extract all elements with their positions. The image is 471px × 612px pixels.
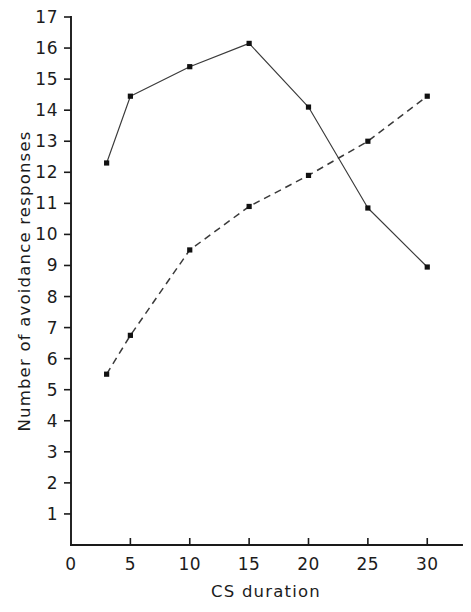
data-point-marker: [365, 205, 370, 210]
y-tick-label: 5: [47, 380, 58, 400]
x-tick-label: 5: [125, 554, 136, 574]
y-tick-label: 15: [35, 69, 58, 89]
data-point-marker: [104, 160, 109, 165]
x-tick-label: 10: [178, 554, 201, 574]
y-tick-label: 3: [47, 442, 58, 462]
y-tick-label: 16: [35, 38, 58, 58]
data-point-marker: [247, 41, 252, 46]
data-series-layer: [104, 41, 430, 377]
data-point-marker: [128, 333, 133, 338]
data-point-marker: [247, 204, 252, 209]
data-point-marker: [306, 104, 311, 109]
x-tick-label: 30: [416, 554, 439, 574]
y-tick-label: 13: [35, 131, 58, 151]
y-tick-label: 9: [47, 255, 58, 275]
x-tick-label: 0: [65, 554, 76, 574]
data-point-marker: [425, 264, 430, 269]
y-tick-label: 10: [35, 224, 58, 244]
chart-figure: 1234567891011121314151617 051015202530 C…: [0, 0, 471, 612]
x-axis-ticks: 051015202530: [65, 538, 438, 574]
y-tick-label: 8: [47, 287, 58, 307]
x-axis-title: CS duration: [211, 582, 321, 601]
y-tick-label: 14: [35, 100, 58, 120]
x-tick-label: 25: [357, 554, 380, 574]
y-axis-title: Number of avoidance responses: [15, 130, 34, 431]
series-line-dashed-series: [107, 96, 428, 374]
y-tick-label: 7: [47, 318, 58, 338]
data-point-marker: [187, 64, 192, 69]
line-chart: 1234567891011121314151617 051015202530 C…: [0, 0, 471, 612]
x-tick-label: 15: [238, 554, 261, 574]
series-line-solid-series: [107, 43, 428, 267]
y-tick-label: 1: [47, 504, 58, 524]
y-tick-label: 4: [47, 411, 58, 431]
y-tick-label: 11: [35, 193, 58, 213]
data-point-marker: [365, 139, 370, 144]
y-axis-ticks: 1234567891011121314151617: [35, 7, 71, 524]
data-point-marker: [187, 247, 192, 252]
data-point-marker: [306, 173, 311, 178]
y-tick-label: 12: [35, 162, 58, 182]
data-point-marker: [104, 372, 109, 377]
y-tick-label: 2: [47, 473, 58, 493]
data-point-marker: [128, 94, 133, 99]
x-tick-label: 20: [297, 554, 320, 574]
data-point-marker: [425, 94, 430, 99]
y-tick-label: 6: [47, 349, 58, 369]
y-tick-label: 17: [35, 7, 58, 27]
